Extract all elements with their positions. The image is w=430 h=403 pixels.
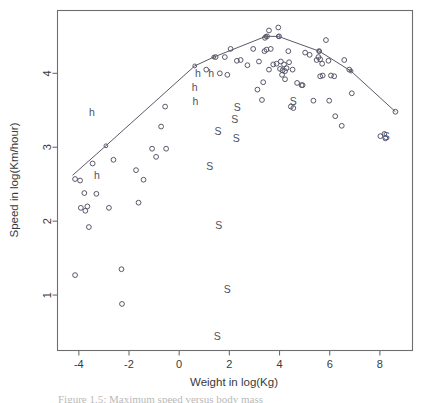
data-point-label-h: h	[89, 106, 95, 118]
data-point-label-S: S	[234, 101, 241, 113]
data-point-label-S: S	[215, 125, 222, 137]
data-point-label-S: S	[231, 113, 238, 125]
data-point-label-S: S	[215, 219, 222, 231]
y-tick-label-0: 1	[42, 292, 54, 298]
data-point-label-S: S	[206, 160, 213, 172]
x-tick-label-6: 8	[377, 358, 383, 370]
data-point-label-S: S	[224, 283, 231, 295]
data-point-label-S: S	[290, 95, 297, 107]
data-point-label-S: S	[383, 130, 390, 142]
data-point-label-h: h	[193, 95, 199, 107]
plot-background	[0, 0, 430, 403]
y-tick-label-1: 2	[42, 218, 54, 224]
x-tick-label-0: -4	[74, 358, 84, 370]
x-tick-label-4: 4	[276, 358, 282, 370]
scatter-plot: -4-202468 1234 hhhhhhSSSSSSSSSS Weight i…	[0, 0, 430, 403]
x-tick-label-3: 2	[226, 358, 232, 370]
y-tick-label-2: 3	[42, 144, 54, 150]
x-tick-label-5: 6	[327, 358, 333, 370]
y-axis-label: Speed in log(Km/hour)	[8, 122, 20, 237]
x-axis-label: Weight in log(Kg)	[190, 376, 278, 388]
figure-container: -4-202468 1234 hhhhhhSSSSSSSSSS Weight i…	[0, 0, 430, 403]
data-point-label-h: h	[195, 67, 201, 79]
data-point-label-S: S	[233, 132, 240, 144]
data-point-label-S: S	[214, 330, 221, 342]
data-point-label-h: h	[192, 81, 198, 93]
figure-caption: Figure 1.5: Maximum speed versus body ma…	[58, 393, 418, 403]
data-point-label-h: h	[94, 169, 100, 181]
x-tick-label-2: 0	[176, 358, 182, 370]
y-tick-label-3: 4	[42, 70, 54, 76]
data-point-label-h: h	[208, 67, 214, 79]
x-tick-label-1: -2	[124, 358, 134, 370]
